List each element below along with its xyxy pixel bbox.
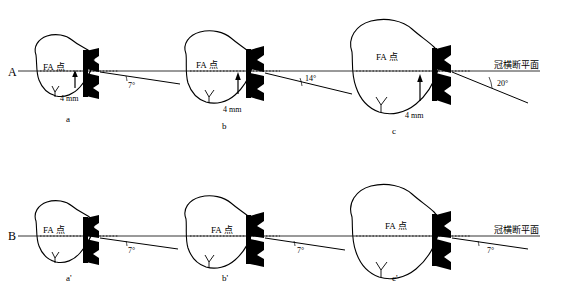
fa-point-label-a: FA 点 — [43, 62, 65, 72]
angle-line-c — [452, 72, 528, 103]
caption-b: b — [222, 121, 227, 131]
diagram-svg: A 冠横断平面 FA 点 4 mm — [0, 0, 575, 284]
caption-b-prime: b' — [222, 273, 229, 283]
subfigure-a: FA 点 4 mm 7° a — [35, 35, 180, 124]
bracket-a — [83, 48, 99, 99]
caption-c: c — [392, 126, 396, 136]
bracket-c — [432, 45, 451, 105]
distance-label-a: 4 mm — [60, 94, 79, 103]
bracket-b-prime — [246, 212, 264, 267]
angle-line-b-prime — [265, 238, 345, 250]
caption-a-prime: a' — [66, 273, 72, 283]
subfigure-b-prime: FA 点 7° b' — [185, 196, 345, 283]
angle-arc-c — [489, 77, 492, 88]
angle-label-c-prime: 7° — [487, 246, 494, 255]
angle-arc-b-prime — [294, 241, 295, 246]
angle-label-b-prime: 7° — [297, 246, 304, 255]
fa-point-label-c: FA 点 — [376, 52, 398, 62]
tooth-root-marks-c — [376, 97, 387, 112]
caption-c-prime: c' — [392, 273, 398, 283]
distance-arrow-c — [417, 74, 423, 101]
tooth-outline-c-prime — [351, 184, 440, 278]
panel-B-letter: B — [8, 229, 16, 243]
subfigure-a-prime: FA 点 7° a' — [35, 201, 178, 283]
distance-label-c: 4 mm — [405, 111, 424, 120]
tooth-root-marks-b-prime — [205, 255, 214, 268]
angle-label-a-prime: 7° — [128, 246, 135, 255]
fa-point-label-b: FA 点 — [196, 60, 218, 70]
distance-label-b: 4 mm — [223, 105, 242, 114]
subfigure-c: FA 点 4 mm 20° c — [351, 19, 528, 136]
fa-point-label-a-prime: FA 点 — [43, 225, 65, 235]
panel-A: A 冠横断平面 FA 点 4 mm — [8, 19, 540, 136]
caption-a: a — [66, 114, 70, 124]
fa-point-label-c-prime: FA 点 — [385, 221, 407, 231]
panel-B-axis-label: 冠横断平面 — [494, 224, 539, 235]
angle-arc-a — [126, 76, 127, 81]
angle-label-b: 14° — [305, 74, 316, 83]
distance-arrow-a — [72, 70, 78, 88]
bracket-b — [246, 46, 264, 101]
angle-label-a: 7° — [128, 81, 135, 90]
panel-A-axis-label: 冠横断平面 — [494, 59, 539, 70]
tooth-root-marks-b — [205, 90, 214, 103]
panel-B: B 冠横断平面 FA 点 7° a' FA 点 — [8, 184, 540, 283]
panel-A-letter: A — [8, 65, 17, 79]
angle-line-a-prime — [100, 238, 178, 249]
subfigure-b: FA 点 4 mm 14° b — [185, 31, 352, 131]
bracket-a-prime — [83, 215, 99, 265]
bracket-c-prime — [432, 211, 451, 270]
tooth-outline-c — [351, 19, 440, 113]
tooth-root-marks-c-prime — [376, 262, 387, 277]
angle-line-a — [100, 72, 180, 84]
fa-point-label-b-prime: FA 点 — [211, 225, 233, 235]
angle-label-c: 20° — [497, 79, 508, 88]
figure-canvas: A 冠横断平面 FA 点 4 mm — [0, 0, 575, 284]
